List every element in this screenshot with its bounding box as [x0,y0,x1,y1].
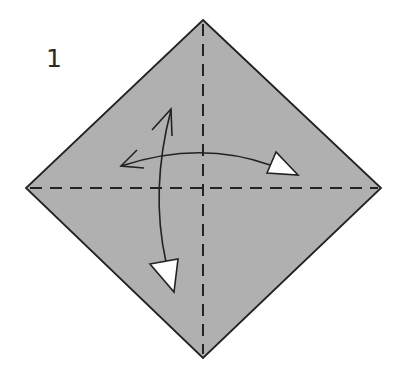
step-number: 1 [46,46,62,71]
